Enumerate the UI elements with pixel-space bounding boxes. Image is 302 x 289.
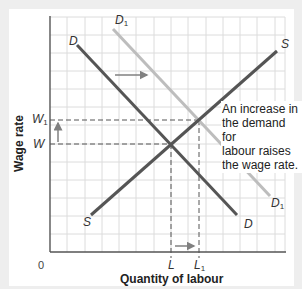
demand-label-top: D [69,35,78,47]
annotation-line-4: the wage rate. [222,158,301,172]
demand-new-label-bottom: D1 [271,197,284,211]
annotation-text: An increase in the demand for labour rai… [221,101,302,173]
annotation-line-2: the demand for [222,116,301,144]
annotation-line-1: An increase in [222,102,301,116]
supply-label-top: S [281,38,289,50]
annotation-line-3: labour raises [222,144,301,158]
w-tick-label: W [33,138,44,150]
y-axis-title: Wage rate [12,115,26,172]
l1-tick-label: L1 [194,259,205,273]
l-tick-label: L [168,259,175,271]
origin-label: 0 [38,259,44,271]
x-axis-title: Quantity of labour [120,272,223,286]
w1-tick-label: W1 [32,113,48,127]
supply-label-bottom: S [83,216,91,228]
demand-label-bottom: D [244,218,253,230]
demand-new-label-top: D1 [115,14,128,28]
